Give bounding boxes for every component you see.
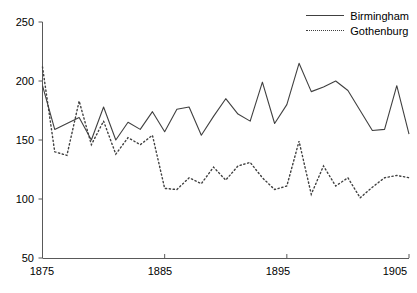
x-tick-label-1905: 1905 [375, 266, 415, 277]
y-axis-ticks [39, 22, 43, 258]
legend-swatch-dotted-icon [306, 30, 344, 32]
series-line-gothenburg [43, 67, 410, 198]
chart-plot-area [0, 0, 417, 293]
x-axis-ticks [43, 254, 410, 258]
y-tick-label-200: 200 [4, 76, 34, 87]
y-tick-label-50: 50 [4, 253, 34, 264]
series-line-birmingham [43, 63, 410, 140]
y-tick-label-250: 250 [4, 17, 34, 28]
chart-legend: Birmingham Gothenburg [306, 8, 409, 38]
legend-label-birmingham: Birmingham [350, 9, 409, 23]
legend-item-gothenburg: Gothenburg [306, 23, 409, 38]
y-tick-label-100: 100 [4, 194, 34, 205]
legend-label-gothenburg: Gothenburg [350, 24, 408, 38]
x-tick-label-1895: 1895 [258, 266, 298, 277]
x-tick-label-1875: 1875 [22, 266, 62, 277]
x-tick-label-1885: 1885 [140, 266, 180, 277]
line-chart: 250 200 150 100 50 1875 1885 1895 1905 B… [0, 0, 417, 293]
legend-item-birmingham: Birmingham [306, 8, 409, 23]
legend-swatch-solid-icon [306, 15, 344, 17]
y-tick-label-150: 150 [4, 135, 34, 146]
